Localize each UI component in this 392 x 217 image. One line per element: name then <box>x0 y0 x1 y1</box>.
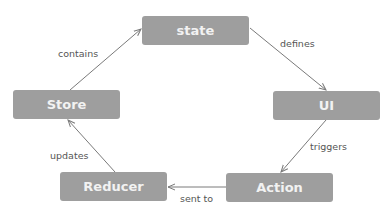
node-state-label: state <box>177 23 215 38</box>
node-state: state <box>142 16 249 45</box>
node-ui: UI <box>273 91 380 120</box>
node-ui-label: UI <box>319 98 334 113</box>
node-store: Store <box>13 90 120 119</box>
edge-updates-arrow <box>68 120 115 172</box>
node-reducer: Reducer <box>60 172 167 201</box>
edge-label-defines: defines <box>280 38 315 49</box>
edge-label-contains: contains <box>58 48 98 59</box>
edge-contains-arrow <box>70 29 141 90</box>
node-store-label: Store <box>47 97 87 112</box>
node-reducer-label: Reducer <box>83 179 143 194</box>
node-action-label: Action <box>256 180 303 195</box>
edge-label-updates: updates <box>50 150 88 161</box>
edge-label-triggers: triggers <box>310 141 347 152</box>
node-action: Action <box>226 173 333 202</box>
edge-label-sent-to: sent to <box>180 193 213 204</box>
